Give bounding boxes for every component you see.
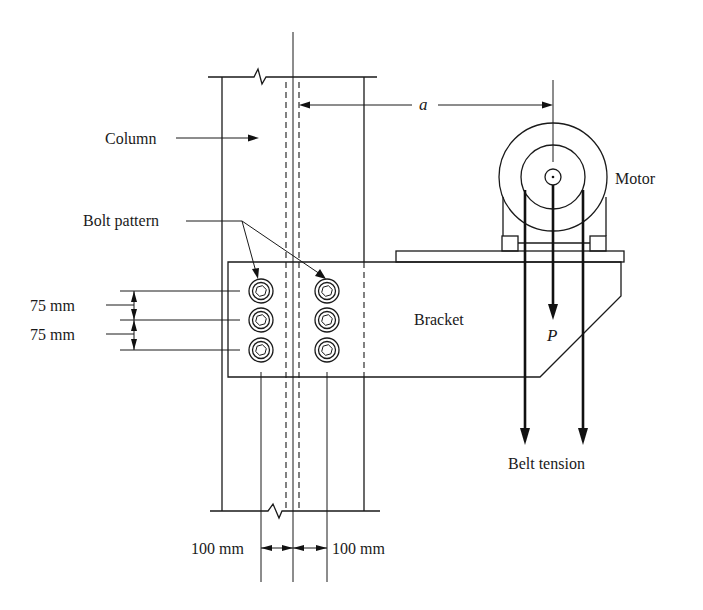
dim-arrowhead — [131, 309, 137, 320]
bolt-head — [253, 283, 270, 300]
load-p-arrowhead — [548, 304, 558, 320]
dim-arrowhead — [131, 339, 137, 350]
load-p-label: P — [546, 326, 557, 345]
dimension-label-100mm-left: 100 mm — [191, 540, 244, 557]
dim-arrowhead — [131, 291, 137, 302]
bolt-leader-arrowhead-left — [252, 268, 259, 279]
bolt — [315, 279, 339, 303]
dimension-label-75mm-lower: 75 mm — [30, 326, 75, 343]
dim-a-arrowhead-right — [542, 102, 553, 109]
bolt — [249, 338, 273, 362]
column-label: Column — [105, 130, 157, 147]
motor-left-foot — [502, 236, 518, 251]
column-bottom-break-line — [210, 504, 380, 518]
belt-tension-label: Belt tension — [508, 455, 585, 472]
motor-right-foot — [590, 236, 606, 251]
bracket-label: Bracket — [414, 311, 464, 328]
bolt — [249, 308, 273, 332]
bolt-pattern — [249, 279, 339, 362]
dim-a-arrowhead-left — [299, 102, 310, 109]
dimension-a-label: a — [419, 95, 428, 114]
bolt-pattern-leaders — [186, 221, 326, 279]
bolt-hex-icon — [322, 286, 333, 297]
dimension-label-75mm-upper: 75 mm — [30, 297, 75, 314]
bolt — [249, 279, 273, 303]
belt-right-arrowhead — [578, 428, 588, 445]
bolt-pattern-label: Bolt pattern — [83, 212, 159, 230]
dimension-label-100mm-right: 100 mm — [332, 540, 385, 557]
column — [208, 69, 380, 518]
dim-arrowhead — [316, 545, 327, 551]
dim-arrowhead — [261, 545, 272, 551]
bracket-diagram: 75 mm 75 mm 100 mm 100 mm Column Bolt pa… — [0, 0, 703, 610]
bolt-hex-icon — [322, 315, 333, 326]
diagram-canvas: 75 mm 75 mm 100 mm 100 mm Column Bolt pa… — [0, 0, 703, 610]
bolt-head — [319, 283, 336, 300]
column-label-arrowhead — [248, 135, 259, 142]
bolt-hex-icon — [322, 345, 333, 356]
horizontal-dimension-arrows — [261, 545, 327, 551]
bolt-head — [319, 342, 336, 359]
bolt-hex-icon — [256, 286, 267, 297]
motor-shaft-center — [552, 176, 555, 179]
dim-arrowhead — [282, 545, 293, 551]
bolt — [315, 338, 339, 362]
bolt-head — [253, 312, 270, 329]
bolt — [315, 308, 339, 332]
bolt-head — [253, 342, 270, 359]
bolt-hex-icon — [256, 345, 267, 356]
bolt-leader-arrowhead-right — [315, 269, 326, 279]
motor-base-plate — [396, 251, 624, 262]
bolt-head — [319, 312, 336, 329]
dim-arrowhead — [293, 545, 304, 551]
belt-left-arrowhead — [520, 428, 530, 445]
motor-label: Motor — [615, 170, 656, 187]
bolt-hex-icon — [256, 315, 267, 326]
dim-arrowhead — [131, 320, 137, 331]
